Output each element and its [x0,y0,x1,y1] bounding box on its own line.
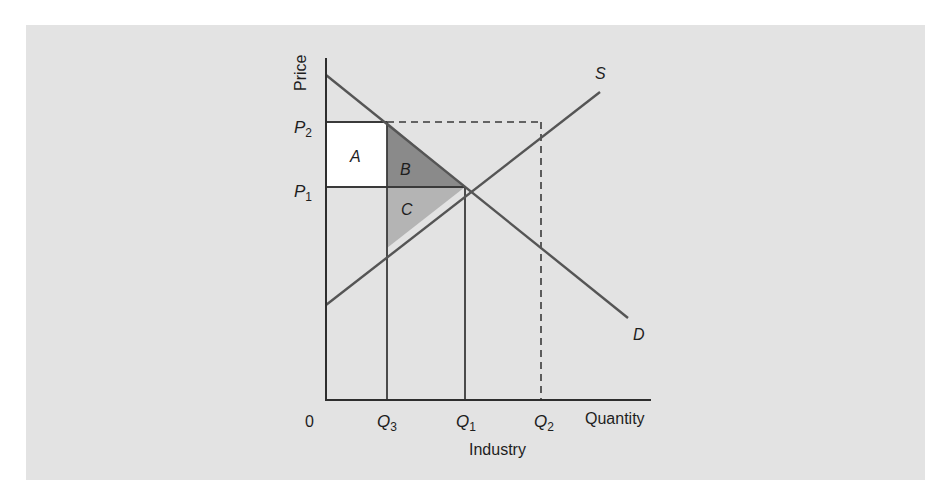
x-axis-label: Quantity [585,410,645,427]
origin-label: 0 [305,413,314,430]
q1-label: Q1 [456,412,476,434]
y-axis-label: Price [292,54,309,91]
q3-label: Q3 [377,412,397,434]
area-a-label: A [349,148,361,165]
area-c [387,187,465,248]
area-b-label: B [400,161,411,178]
demand-label: D [633,326,645,343]
area-c-label: C [401,201,413,218]
supply-label: S [595,65,606,82]
supply-demand-diagram: Price P2 P1 A B C S D 0 Q3 Q1 Q2 Quantit… [0,0,950,504]
p1-label: P1 [294,182,312,204]
p2-label: P2 [294,118,312,140]
q2-label: Q2 [534,412,554,434]
demand-curve [326,75,628,318]
figure-caption: Industry [469,441,526,458]
